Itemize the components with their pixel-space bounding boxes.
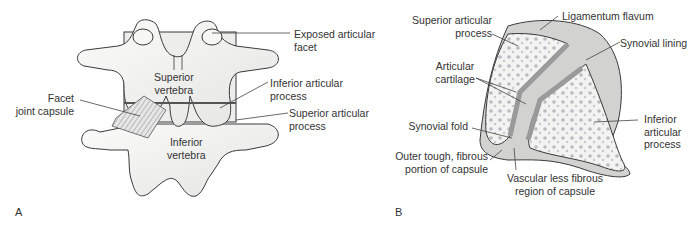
label-superior-articular-process: Superior articular process xyxy=(410,14,492,39)
panel-letter-b: B xyxy=(395,206,402,218)
label-inferior-articular-process: Inferior articular process xyxy=(270,77,343,102)
label-synovial-lining: Synovial lining xyxy=(620,37,687,50)
label-inferior-vertebra: Inferior vertebra xyxy=(167,136,206,161)
label-superior-vertebra: Superior vertebra xyxy=(154,71,194,96)
label-ligamentum-flavum: Ligamentum flavum xyxy=(562,10,654,23)
label-superior-articular-process: Superior articular process xyxy=(289,107,369,132)
label-outer-fibrous-capsule: Outer tough, fibrous portion of capsule xyxy=(384,150,488,175)
panel-b-facet-joint-cross-section: Superior articular process Ligamentum fl… xyxy=(380,0,697,227)
panel-a-vertebrae-posterior-view: Exposed articular facet Superior vertebr… xyxy=(0,0,350,227)
label-inferior-articular-process: Inferior articular process xyxy=(644,113,681,151)
label-vascular-capsule-region: Vascular less fibrous region of capsule xyxy=(500,172,610,197)
label-facet-joint-capsule: Facet joint capsule xyxy=(14,92,74,117)
label-articular-cartilage: Articular cartilage xyxy=(430,60,480,85)
label-synovial-fold: Synovial fold xyxy=(390,120,468,133)
panel-letter-a: A xyxy=(15,206,22,218)
label-exposed-articular-facet: Exposed articular facet xyxy=(294,28,375,53)
